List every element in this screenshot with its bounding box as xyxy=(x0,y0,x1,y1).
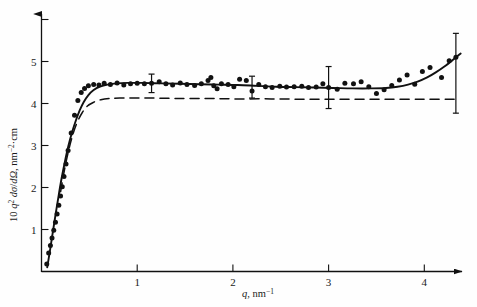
data-point xyxy=(219,81,224,86)
error-bars-layer xyxy=(149,33,459,113)
x-tick-label: 4 xyxy=(422,276,428,288)
data-point xyxy=(91,82,96,87)
data-point xyxy=(64,161,69,166)
y-axis-title-text: 10 q2 dσ/dΩ, nm−2·cm xyxy=(7,128,20,222)
data-point xyxy=(237,77,242,82)
data-point xyxy=(50,235,55,240)
data-point xyxy=(69,130,74,135)
y-tick-label: 1 xyxy=(31,224,37,236)
data-point xyxy=(102,81,107,86)
data-point xyxy=(128,81,133,86)
data-point xyxy=(397,77,402,82)
data-point xyxy=(284,85,289,90)
data-point xyxy=(142,81,147,86)
data-point xyxy=(149,81,154,86)
data-point xyxy=(250,88,255,93)
data-point xyxy=(270,85,275,90)
x-tick-label: 2 xyxy=(230,276,236,288)
data-point xyxy=(420,69,425,74)
data-point xyxy=(314,85,319,90)
data-point xyxy=(55,211,60,216)
y-tick-label: 2 xyxy=(31,182,37,194)
data-point xyxy=(184,82,189,87)
data-point xyxy=(226,82,231,87)
data-point xyxy=(231,84,236,89)
data-point xyxy=(277,84,282,89)
data-point xyxy=(192,83,197,88)
data-point xyxy=(86,83,91,88)
data-point xyxy=(405,72,410,77)
y-axis-title: 10 q2 dσ/dΩ, nm−2·cm xyxy=(7,128,20,222)
data-point xyxy=(56,203,61,208)
data-point xyxy=(108,82,113,87)
data-point xyxy=(389,83,394,88)
data-point xyxy=(61,174,66,179)
data-point xyxy=(121,83,126,88)
data-point xyxy=(263,84,268,89)
data-point xyxy=(135,81,140,86)
y-tick-label: 3 xyxy=(31,140,37,152)
data-point xyxy=(359,79,364,84)
data-point xyxy=(453,55,458,60)
data-point xyxy=(115,80,120,85)
data-point xyxy=(170,83,175,88)
data-point xyxy=(208,75,213,80)
scatter-plot: 12345 1234 10 q2 dσ/dΩ, nm−2·cm q, nm−1 xyxy=(0,0,477,307)
data-point xyxy=(382,87,387,92)
data-point xyxy=(374,91,379,96)
dashed-reference-curve xyxy=(61,98,456,192)
data-point xyxy=(351,81,356,86)
data-point xyxy=(306,85,311,90)
data-point xyxy=(72,113,77,118)
x-axis-title: q, nm−1 xyxy=(242,287,274,300)
data-point xyxy=(53,220,58,225)
data-point xyxy=(163,81,168,86)
data-point xyxy=(66,148,71,153)
data-point xyxy=(60,184,65,189)
data-point xyxy=(58,193,63,198)
x-tick-label: 1 xyxy=(134,276,140,288)
data-point xyxy=(75,98,80,103)
data-point xyxy=(292,84,297,89)
data-point xyxy=(439,75,444,80)
data-point xyxy=(335,87,340,92)
data-point xyxy=(199,81,204,86)
data-point xyxy=(79,90,84,95)
data-point xyxy=(342,81,347,86)
data-point xyxy=(46,251,51,256)
data-point xyxy=(428,65,433,70)
y-axis-ticks: 12345 xyxy=(31,20,49,236)
x-axis-ticks: 1234 xyxy=(134,265,427,288)
data-point xyxy=(215,86,220,91)
plot-axes xyxy=(42,14,463,272)
data-point xyxy=(51,228,56,233)
data-point xyxy=(320,81,325,86)
data-point xyxy=(412,82,417,87)
x-tick-label: 3 xyxy=(326,276,332,288)
data-point xyxy=(326,85,331,90)
y-tick-label: 4 xyxy=(31,98,37,110)
figure-container: 12345 1234 10 q2 dσ/dΩ, nm−2·cm q, nm−1 xyxy=(0,0,477,307)
data-point xyxy=(256,82,261,87)
data-point xyxy=(157,79,162,84)
data-point xyxy=(366,84,371,89)
data-point xyxy=(48,243,53,248)
data-point xyxy=(44,261,49,266)
y-tick-label: 5 xyxy=(31,56,37,68)
data-point xyxy=(299,84,304,89)
data-point xyxy=(447,58,452,63)
data-point xyxy=(96,83,101,88)
data-point xyxy=(178,80,183,85)
data-point xyxy=(244,78,249,83)
x-axis-title-text: q, nm−1 xyxy=(242,287,274,300)
